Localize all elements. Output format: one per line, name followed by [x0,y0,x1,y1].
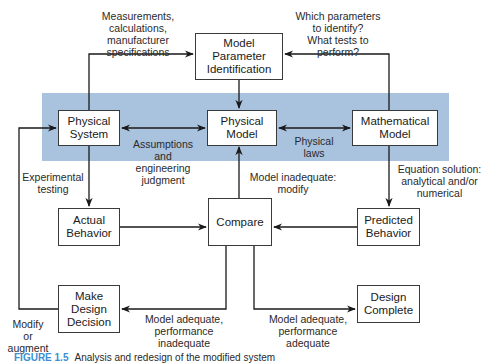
model-parameter-identification-box: Model Parameter Identification [195,33,283,80]
model-inadequate-label: Model inadequate: modify [243,171,343,195]
mathematical-model-box: Mathematical Model [352,110,438,146]
actual-behavior-box: Actual Behavior [58,208,120,246]
experimental-testing-label: Experimental testing [18,171,88,195]
assumptions-label: Assumptions and engineering judgment [128,138,198,186]
physical-model-box: Physical Model [207,110,277,146]
physical-laws-label: Physical laws [284,135,344,159]
figure-number: FIGURE 1.5 [14,352,68,363]
which-parameters-label: Which parameters to identify? What tests… [290,10,386,58]
measurements-label: Measurements, calculations, manufacturer… [96,10,180,58]
modify-or-augment-label: Modify or augment [4,318,52,354]
predicted-behavior-box: Predicted Behavior [357,208,420,246]
figure-caption: FIGURE 1.5Analysis and redesign of the m… [14,352,275,363]
adequate-performance-adequate-label: Model adequate, performance adequate [258,313,358,349]
physical-system-box: Physical System [58,110,120,146]
adequate-performance-inadequate-label: Model adequate, performance inadequate [134,313,234,349]
compare-box: Compare [208,198,272,246]
make-design-decision-box: Make Design Decision [58,285,120,333]
figure-caption-text: Analysis and redesign of the modified sy… [74,352,275,363]
equation-solution-label: Equation solution: analytical and/or num… [392,163,487,199]
design-complete-box: Design Complete [357,285,420,323]
